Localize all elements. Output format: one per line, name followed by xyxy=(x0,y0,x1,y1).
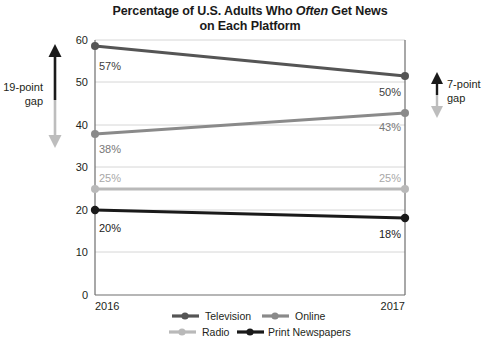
chart-legend: Television Online Radio Print Newspapers xyxy=(169,310,351,338)
legend-item-television[interactable]: Television xyxy=(172,310,251,322)
left-gap-arrowhead-up-icon xyxy=(49,44,62,57)
right-gap-label-line2: gap xyxy=(447,92,465,104)
legend-item-radio[interactable]: Radio xyxy=(169,326,230,338)
label-online-2016: 38% xyxy=(99,143,121,155)
series-television xyxy=(91,42,409,80)
data-point-radio-2017 xyxy=(401,185,409,193)
annotation-right-gap: 7-point gap xyxy=(431,72,481,118)
label-print-2017: 18% xyxy=(379,228,401,240)
legend-marker-radio xyxy=(178,328,185,335)
y-tick-40: 40 xyxy=(76,119,88,131)
y-tick-30: 30 xyxy=(76,161,88,173)
legend-label-television: Television xyxy=(205,310,251,322)
label-online-2017: 43% xyxy=(379,121,401,133)
left-gap-arrowhead-down-icon xyxy=(49,135,62,148)
chart-plot: 60 50 40 30 20 10 0 2016 2017 xyxy=(0,0,493,347)
legend-label-print-newspapers: Print Newspapers xyxy=(268,326,351,338)
legend-item-print-newspapers[interactable]: Print Newspapers xyxy=(237,326,351,338)
legend-item-online[interactable]: Online xyxy=(262,310,326,322)
y-tick-20: 20 xyxy=(76,204,88,216)
series-line-print-newspapers xyxy=(95,210,405,218)
left-gap-label-line1: 19-point xyxy=(3,81,43,93)
data-point-radio-2016 xyxy=(91,185,99,193)
data-point-online-2016 xyxy=(91,130,99,138)
data-point-print-2017 xyxy=(401,214,409,222)
right-gap-arrowhead-up-icon xyxy=(431,72,443,84)
data-point-print-2016 xyxy=(91,206,99,214)
legend-marker-television xyxy=(181,312,188,319)
legend-label-radio: Radio xyxy=(202,326,230,338)
legend-label-online: Online xyxy=(295,310,326,322)
right-gap-arrowhead-down-icon xyxy=(431,106,443,118)
series-online xyxy=(91,109,409,138)
label-television-2017: 50% xyxy=(379,86,401,98)
series-radio xyxy=(91,185,409,193)
legend-marker-print-newspapers xyxy=(246,328,253,335)
label-television-2016: 57% xyxy=(99,60,121,72)
data-point-television-2016 xyxy=(91,42,99,50)
annotation-left-gap: 19-point gap xyxy=(3,44,61,148)
label-print-2016: 20% xyxy=(99,222,121,234)
y-tick-10: 10 xyxy=(76,246,88,258)
chart-container: Percentage of U.S. Adults Who Often Get … xyxy=(0,0,493,347)
y-tick-50: 50 xyxy=(76,76,88,88)
data-point-online-2017 xyxy=(401,109,409,117)
y-tick-0: 0 xyxy=(82,289,88,301)
data-point-television-2017 xyxy=(401,72,409,80)
x-tick-2016: 2016 xyxy=(95,300,119,312)
y-axis-tick-labels: 60 50 40 30 20 10 0 xyxy=(76,34,88,301)
y-tick-60: 60 xyxy=(76,34,88,46)
right-gap-label-line1: 7-point xyxy=(447,78,481,90)
label-radio-2016: 25% xyxy=(99,172,121,184)
legend-marker-online xyxy=(271,312,278,319)
label-radio-2017: 25% xyxy=(379,172,401,184)
series-line-television xyxy=(95,46,405,76)
series-line-online xyxy=(95,113,405,134)
series-print-newspapers xyxy=(91,206,409,222)
x-tick-2017: 2017 xyxy=(381,300,405,312)
left-gap-label-line2: gap xyxy=(25,95,43,107)
